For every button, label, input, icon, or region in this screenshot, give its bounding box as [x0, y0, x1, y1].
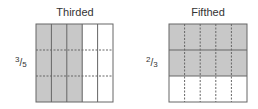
thirded-grid — [36, 24, 113, 102]
fraction-grids — [0, 0, 258, 109]
fifthed-grid — [169, 24, 247, 102]
